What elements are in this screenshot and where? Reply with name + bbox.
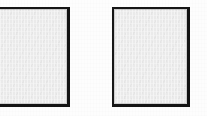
panel-left[interactable] [0,7,70,107]
panel-right[interactable] [112,7,190,107]
panel-right-inner-rule [114,9,187,104]
panel-left-inner-rule [0,9,67,104]
figure-canvas [0,0,207,116]
